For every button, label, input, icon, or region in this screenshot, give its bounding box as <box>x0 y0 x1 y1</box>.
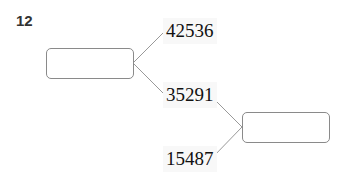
number-bottom: 15487 <box>163 146 217 172</box>
right-answer-box[interactable] <box>242 112 330 143</box>
left-answer-box[interactable] <box>46 48 134 79</box>
number-top: 42536 <box>163 18 217 44</box>
number-middle: 35291 <box>163 82 217 108</box>
